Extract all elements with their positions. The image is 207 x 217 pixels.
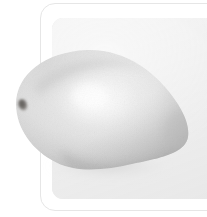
photo-alt-text: Desaturated photograph of a single mango… <box>0 0 1 1</box>
screenshot-canvas: Desaturated photograph of a single mango… <box>0 0 207 217</box>
stem-scar <box>16 98 29 113</box>
photo-panel <box>52 18 207 199</box>
panel-surface-tint <box>52 18 207 199</box>
